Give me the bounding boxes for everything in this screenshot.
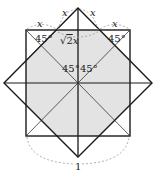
label-angle-top-right: 45° [108,33,126,44]
label-bottom-1: 1 [75,161,81,172]
label-x-right: x [112,18,118,29]
label-x-top-left: x [62,7,68,18]
label-x-left: x [37,18,43,29]
label-angle-top-left: 45° [35,33,53,44]
label-angle-center-left: 45° [62,63,80,74]
geometry-figure: x x x x 45° 45° √2x 45° 45° 1 [0,0,156,182]
label-angle-center-right: 45° [80,63,98,74]
label-x-top-right: x [90,7,96,18]
label-sqrt2x: √2x [60,35,79,46]
